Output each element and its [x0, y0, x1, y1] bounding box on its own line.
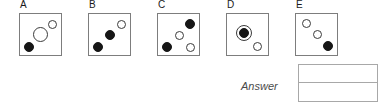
- option-figure-box: [295, 13, 338, 56]
- open-circle-large-center-icon: [33, 27, 48, 42]
- option-figure-box: [19, 13, 62, 56]
- open-circle-bottom-right-icon: [186, 43, 195, 52]
- answer-row-top[interactable]: [299, 65, 377, 83]
- open-circle-top-right-icon: [117, 20, 126, 29]
- open-circle-center-icon: [175, 31, 184, 40]
- filled-circle-bottom-right-icon: [323, 41, 333, 51]
- open-circle-top-left-icon: [302, 19, 311, 28]
- answer-row-bottom[interactable]: [299, 83, 377, 101]
- answer-label: Answer: [241, 80, 278, 92]
- answer-box[interactable]: [298, 64, 378, 102]
- option-label: A: [20, 0, 27, 10]
- filled-circle-bottom-left-icon: [24, 42, 34, 52]
- filled-circle-bottom-left-icon: [93, 42, 103, 52]
- filled-circle-center-icon: [105, 30, 115, 40]
- option-figure-box: [226, 13, 269, 56]
- option-figure-box: [157, 13, 200, 56]
- option-label: E: [296, 0, 303, 10]
- open-circle-center-icon: [313, 30, 322, 39]
- filled-circle-center-icon: [239, 28, 249, 38]
- open-circle-bottom-right-icon: [253, 42, 262, 51]
- option-label: C: [158, 0, 165, 10]
- filled-circle-top-right-icon: [185, 19, 195, 29]
- option-figure-box: [88, 13, 131, 56]
- option-label: B: [89, 0, 96, 10]
- filled-circle-bottom-left-icon: [162, 42, 172, 52]
- option-label: D: [227, 0, 234, 10]
- open-circle-small-top-right-icon: [48, 20, 57, 29]
